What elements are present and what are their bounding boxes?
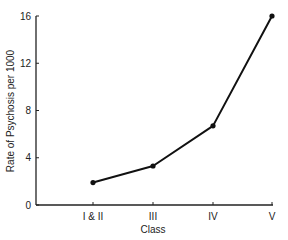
chart: 0481216I & IIIIIIVV Rate of Psychosis pe… xyxy=(0,0,288,240)
y-tick-label: 4 xyxy=(25,152,31,163)
y-tick-label: 8 xyxy=(25,105,31,116)
x-tick-label: IV xyxy=(208,211,218,222)
data-line xyxy=(93,16,272,183)
y-axis-title: Rate of Psychosis per 1000 xyxy=(5,49,16,172)
x-tick-label: III xyxy=(149,211,157,222)
plot-area xyxy=(90,13,274,185)
data-point-marker xyxy=(269,13,274,18)
x-tick-label: I & II xyxy=(83,211,104,222)
x-tick-label: V xyxy=(269,211,276,222)
data-point-marker xyxy=(90,180,95,185)
y-tick-label: 0 xyxy=(25,200,31,211)
data-point-marker xyxy=(210,123,215,128)
axes: 0481216I & IIIIIIVV xyxy=(20,11,276,223)
data-point-marker xyxy=(150,163,155,168)
x-axis-title: Class xyxy=(140,224,165,235)
y-tick-label: 16 xyxy=(20,11,32,22)
y-tick-label: 12 xyxy=(20,58,32,69)
